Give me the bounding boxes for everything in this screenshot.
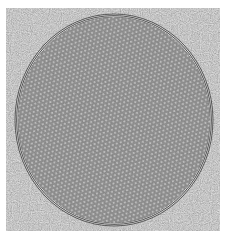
micrograph-image bbox=[6, 8, 220, 231]
micrograph-frame bbox=[6, 8, 220, 231]
